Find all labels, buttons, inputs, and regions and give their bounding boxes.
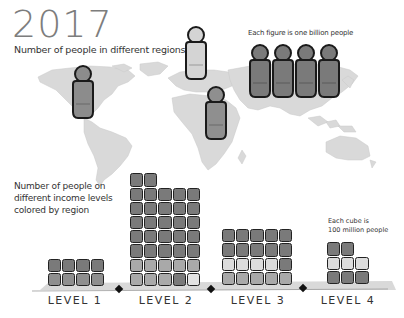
cube-level-2 bbox=[130, 188, 143, 201]
cube-level-2 bbox=[130, 259, 143, 272]
cube-level-3 bbox=[236, 272, 249, 285]
cube-level-2 bbox=[130, 173, 143, 186]
cube-level-3 bbox=[279, 229, 292, 242]
cube-level-3 bbox=[236, 258, 249, 271]
cube-level-3 bbox=[250, 229, 263, 242]
cube-level-4 bbox=[341, 271, 354, 284]
cube-level-2 bbox=[144, 259, 157, 272]
cube-level-2 bbox=[158, 216, 171, 229]
cube-level-2 bbox=[130, 216, 143, 229]
cube-level-2 bbox=[173, 259, 186, 272]
cube-level-2 bbox=[187, 259, 200, 272]
cube-level-3 bbox=[222, 229, 235, 242]
cube-level-3 bbox=[236, 243, 249, 256]
cube-level-2 bbox=[130, 202, 143, 215]
cube-level-2 bbox=[187, 202, 200, 215]
cube-level-3 bbox=[279, 258, 292, 271]
level-label-4: LEVEL 4 bbox=[308, 294, 388, 307]
cube-level-3 bbox=[279, 243, 292, 256]
cube-level-2 bbox=[158, 202, 171, 215]
level-label-3: LEVEL 3 bbox=[218, 294, 298, 307]
cube-level-3 bbox=[265, 229, 278, 242]
cube-level-1 bbox=[48, 259, 61, 272]
cube-level-3 bbox=[222, 258, 235, 271]
cube-level-2 bbox=[173, 216, 186, 229]
cube-level-2 bbox=[187, 244, 200, 257]
cube-level-1 bbox=[91, 273, 104, 286]
cube-level-4 bbox=[327, 257, 340, 270]
cube-level-3 bbox=[265, 272, 278, 285]
cube-level-1 bbox=[62, 259, 75, 272]
cube-level-2 bbox=[173, 188, 186, 201]
cube-level-2 bbox=[158, 273, 171, 286]
cube-level-3 bbox=[250, 258, 263, 271]
cube-level-2 bbox=[173, 202, 186, 215]
cube-level-2 bbox=[158, 244, 171, 257]
cube-level-2 bbox=[144, 273, 157, 286]
cube-level-2 bbox=[173, 230, 186, 243]
cube-level-2 bbox=[187, 216, 200, 229]
cube-level-2 bbox=[130, 273, 143, 286]
cube-level-1 bbox=[91, 259, 104, 272]
cube-level-2 bbox=[144, 216, 157, 229]
cube-level-1 bbox=[76, 273, 89, 286]
cube-level-2 bbox=[173, 273, 186, 286]
cube-level-2 bbox=[187, 273, 200, 286]
cube-level-4 bbox=[327, 242, 340, 255]
level-label-2: LEVEL 2 bbox=[126, 294, 206, 307]
cube-level-2 bbox=[158, 188, 171, 201]
cube-level-1 bbox=[76, 259, 89, 272]
cube-level-3 bbox=[279, 272, 292, 285]
cube-level-2 bbox=[158, 230, 171, 243]
cube-level-2 bbox=[130, 230, 143, 243]
cube-level-2 bbox=[158, 259, 171, 272]
cube-level-3 bbox=[265, 258, 278, 271]
cube-level-2 bbox=[144, 244, 157, 257]
cube-level-3 bbox=[265, 243, 278, 256]
cube-level-2 bbox=[130, 244, 143, 257]
cube-level-1 bbox=[62, 273, 75, 286]
cube-level-4 bbox=[355, 257, 368, 270]
cube-level-2 bbox=[173, 244, 186, 257]
cube-level-2 bbox=[144, 230, 157, 243]
cube-level-3 bbox=[236, 229, 249, 242]
cube-level-2 bbox=[144, 202, 157, 215]
cube-level-4 bbox=[341, 242, 354, 255]
cube-level-2 bbox=[144, 188, 157, 201]
cube-level-3 bbox=[222, 243, 235, 256]
cube-level-2 bbox=[187, 230, 200, 243]
cube-level-4 bbox=[355, 271, 368, 284]
cube-level-3 bbox=[250, 243, 263, 256]
cube-level-2 bbox=[187, 188, 200, 201]
cube-level-4 bbox=[341, 257, 354, 270]
cube-level-3 bbox=[222, 272, 235, 285]
income-cubes bbox=[0, 0, 404, 318]
level-label-1: LEVEL 1 bbox=[35, 294, 115, 307]
cube-level-2 bbox=[144, 173, 157, 186]
cube-level-3 bbox=[250, 272, 263, 285]
cube-level-1 bbox=[48, 273, 61, 286]
cube-level-4 bbox=[327, 271, 340, 284]
